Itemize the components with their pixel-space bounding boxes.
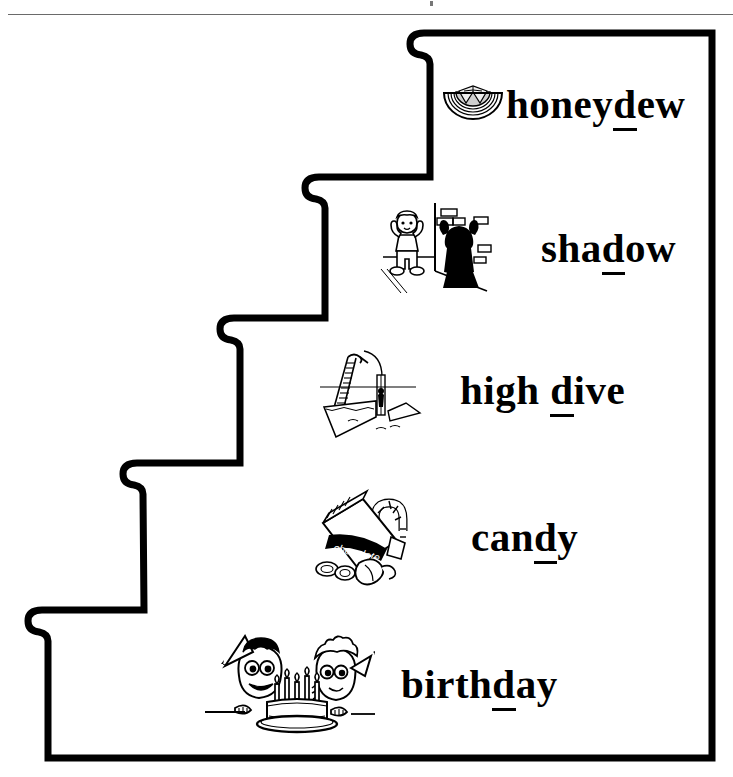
honeydew-melon-slice-icon [442, 81, 504, 127]
step-word-2: shadow [541, 228, 676, 269]
child-casting-shadow-icon [375, 199, 525, 297]
word-part-after: y [557, 514, 578, 560]
step-word-3: high dive [460, 370, 625, 411]
step-word-1: honeydew [506, 84, 685, 125]
word-underlined-letter: d [492, 661, 515, 711]
step-row-1: honeydew [432, 48, 710, 160]
word-underlined-letter: d [602, 225, 625, 275]
word-underlined-letter: d [550, 367, 573, 417]
word-part-after: ive [574, 367, 626, 413]
step-row-5: birthday [50, 625, 710, 743]
step-row-4: chocolate candy [145, 478, 710, 596]
word-underlined-letter: d [613, 81, 636, 131]
word-part-after: ow [625, 225, 676, 271]
birthday-children-cake-icon [205, 632, 375, 736]
word-part-before: can [471, 514, 534, 560]
word-part-after: ew [637, 81, 686, 127]
high-diving-board-icon [320, 341, 438, 441]
word-underlined-letter: d [534, 514, 557, 564]
word-part-before: sha [541, 225, 602, 271]
word-part-before: honey [506, 81, 613, 127]
step-word-4: candy [471, 517, 578, 558]
step-row-3: high dive [242, 333, 710, 448]
word-part-before: high [460, 367, 550, 413]
step-row-2: shadow [327, 192, 710, 304]
worksheet-page: honeydew [0, 0, 733, 777]
word-part-after: ay [516, 661, 558, 707]
step-word-5: birthday [401, 664, 558, 705]
candy-chocolate-bar-icon: chocolate [305, 485, 431, 589]
word-part-before: birth [401, 661, 492, 707]
